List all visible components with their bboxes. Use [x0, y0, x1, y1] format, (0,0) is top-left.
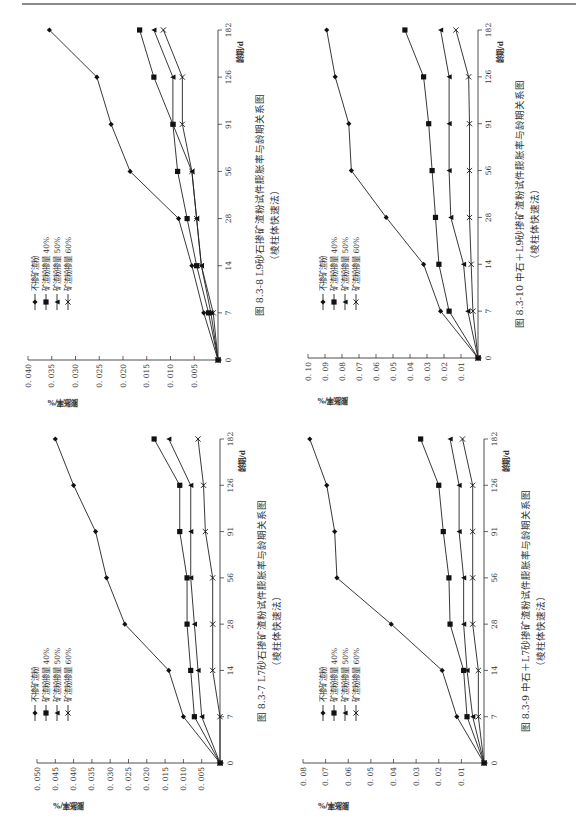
caption-subtitle: （棱柱体快速法） [271, 591, 282, 671]
value-tick-label: 0. 02 [440, 362, 449, 381]
legend-item: 不掺矿渣粉 [318, 666, 328, 702]
value-tick-label: 0. 03 [423, 362, 432, 381]
value-tick-label: 0. 040 [24, 364, 33, 388]
age-axis-title: 龄期/d [501, 449, 511, 472]
age-tick-label: 56 [224, 166, 233, 176]
figure-caption: 图 8.3-7 L7砂石掺矿渣粉试件膨胀率与龄期关系图（棱柱体快速法） [256, 500, 282, 723]
age-axis-title: 龄期/d [237, 449, 247, 472]
value-tick-label: 0. 035 [47, 364, 56, 388]
value-tick-label: 0. 07 [321, 767, 330, 786]
value-tick-label: 0. 050 [33, 767, 42, 791]
value-axis-title: 膨胀率/% [48, 398, 80, 408]
value-tick-label: 0. 015 [161, 767, 170, 791]
value-axis-title: 膨胀率/% [318, 801, 350, 811]
legend-item: 矿渣粉掺量 60% [63, 237, 73, 291]
value-tick-label: 0. 025 [95, 364, 104, 388]
legend-item: 矿渣粉掺量 60% [351, 237, 361, 291]
value-tick-label: 0. 08 [299, 767, 308, 786]
legend: 不掺矿渣粉矿渣粉掺量 40%矿渣粉掺量 50%矿渣粉掺量 60% [30, 648, 73, 721]
age-tick-label: 182 [224, 23, 233, 38]
legend-item: 矿渣粉掺量 40% [41, 648, 51, 702]
series-diamond [324, 27, 481, 360]
legend-item: 矿渣粉掺量 50% [340, 237, 350, 291]
value-tick-label: 0. 07 [355, 362, 364, 381]
age-tick-label: 126 [484, 69, 493, 84]
legend-item: 不掺矿渣粉 [318, 255, 328, 291]
age-axis-title: 龄期/d [235, 40, 245, 63]
chart-svg: 0. 0050. 0100. 0150. 0200. 0250. 0300. 0… [0, 0, 288, 411]
axes: 0. 010. 020. 030. 040. 050. 060. 070. 08… [304, 23, 506, 406]
value-tick-label: 0. 040 [69, 767, 78, 791]
age-tick-label: 28 [224, 214, 233, 224]
chart-panel-fig-8-3-8: 0. 0050. 0100. 0150. 0200. 0250. 0300. 0… [0, 0, 288, 411]
age-tick-label: 28 [226, 619, 235, 629]
value-tick-label: 0. 01 [457, 362, 466, 381]
value-tick-label: 0. 025 [124, 767, 133, 791]
legend-item: 矿渣粉掺量 40% [329, 237, 339, 291]
age-tick-label: 14 [490, 665, 499, 675]
value-tick-label: 0. 020 [142, 767, 151, 791]
legend-item: 矿渣粉掺量 50% [340, 648, 350, 702]
age-tick-label: 0 [484, 355, 493, 360]
axes: 0. 0050. 0100. 0150. 0200. 0250. 0300. 0… [24, 23, 246, 408]
series-diamond [53, 436, 223, 765]
age-tick-label: 7 [484, 309, 493, 314]
age-tick-label: 91 [484, 119, 493, 129]
series-square [137, 27, 221, 362]
age-tick-label: 56 [484, 166, 493, 176]
value-axis-title: 膨胀率/% [318, 396, 350, 406]
age-tick-label: 91 [490, 527, 499, 537]
age-tick-label: 28 [484, 212, 493, 222]
legend-item: 矿渣粉掺量 50% [52, 648, 62, 702]
legend-item: 矿渣粉掺量 40% [41, 237, 51, 291]
value-tick-label: 0. 03 [412, 767, 421, 786]
value-tick-label: 0. 06 [372, 362, 381, 381]
caption-title: 图 8.3-9 中石＋L7砂掺矿渣粉试件膨胀率与龄期关系图 [520, 490, 531, 733]
age-tick-label: 28 [490, 619, 499, 629]
value-tick-label: 0. 10 [304, 362, 313, 381]
legend-item: 不掺矿渣粉 [30, 666, 40, 702]
legend: 不掺矿渣粉矿渣粉掺量 40%矿渣粉掺量 50%矿渣粉掺量 60% [318, 237, 361, 310]
legend-item: 不掺矿渣粉 [30, 255, 40, 291]
value-tick-label: 0. 005 [190, 364, 199, 388]
legend-item: 矿渣粉掺量 60% [351, 648, 361, 702]
age-tick-label: 56 [490, 573, 499, 583]
series-square [418, 436, 487, 765]
value-tick-label: 0. 04 [406, 362, 415, 381]
chart-svg: 0. 0050. 0100. 0150. 0200. 0250. 0300. 0… [0, 411, 288, 822]
chart-panel-fig-8-3-9: 0. 010. 020. 030. 040. 050. 060. 070. 08… [288, 411, 576, 822]
legend: 不掺矿渣粉矿渣粉掺量 40%矿渣粉掺量 50%矿渣粉掺量 60% [318, 648, 361, 721]
series-x [195, 436, 222, 765]
caption-title: 图 8.3-8 L9砂石掺矿渣粉试件膨胀率与龄期关系图 [254, 94, 265, 317]
value-axis-title: 膨胀率/% [53, 801, 85, 811]
series-triangle [151, 27, 220, 362]
age-tick-label: 91 [224, 120, 233, 130]
caption-subtitle: （棱柱体快速法） [269, 185, 280, 265]
age-tick-label: 126 [490, 478, 499, 493]
value-tick-label: 0. 005 [197, 767, 206, 791]
age-tick-label: 7 [490, 714, 499, 719]
age-tick-label: 126 [226, 478, 235, 493]
caption-subtitle: （棱柱体快速法） [535, 591, 546, 671]
value-tick-label: 0. 05 [366, 767, 375, 786]
value-tick-label: 0. 015 [142, 364, 151, 388]
age-tick-label: 7 [226, 714, 235, 719]
figure-caption: 图 8.3-10 中石＋L9砂掺矿渣粉试件膨胀率与龄期关系图（棱柱体快速法） [514, 80, 540, 329]
legend-item: 矿渣粉掺量 60% [63, 648, 73, 702]
series-square [152, 436, 223, 765]
age-tick-label: 0 [224, 357, 233, 362]
chart-panel-fig-8-3-10: 0. 010. 020. 030. 040. 050. 060. 070. 08… [288, 0, 576, 411]
caption-title: 图 8.3-7 L7砂石掺矿渣粉试件膨胀率与龄期关系图 [256, 500, 267, 723]
age-tick-label: 0 [490, 760, 499, 765]
value-tick-label: 0. 05 [389, 362, 398, 381]
value-tick-label: 0. 06 [344, 767, 353, 786]
age-tick-label: 14 [224, 261, 233, 271]
value-tick-label: 0. 010 [179, 767, 188, 791]
chart-svg: 0. 010. 020. 030. 040. 050. 060. 070. 08… [288, 411, 576, 822]
value-tick-label: 0. 010 [166, 364, 175, 388]
age-tick-label: 0 [226, 760, 235, 765]
value-tick-label: 0. 08 [338, 362, 347, 381]
value-tick-label: 0. 045 [51, 767, 60, 791]
legend-item: 矿渣粉掺量 50% [52, 237, 62, 291]
value-tick-label: 0. 02 [434, 767, 443, 786]
